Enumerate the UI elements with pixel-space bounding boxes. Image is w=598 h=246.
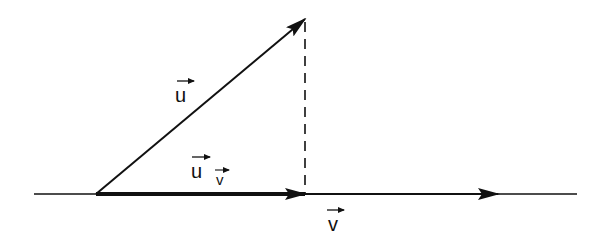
- svg-text:u: u: [175, 84, 186, 106]
- svg-text:v: v: [328, 213, 338, 235]
- label-v: v: [327, 210, 344, 235]
- label-u: u: [175, 81, 194, 106]
- svg-text:v: v: [216, 171, 224, 188]
- svg-text:u: u: [191, 160, 202, 182]
- vector-projection-diagram: u u v v: [0, 0, 598, 246]
- label-projection: u v: [191, 157, 229, 188]
